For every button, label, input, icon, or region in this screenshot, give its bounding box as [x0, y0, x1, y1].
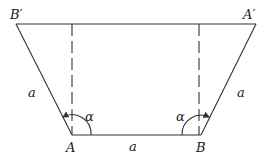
label-A: A: [66, 141, 75, 154]
angle-arc-B: [182, 115, 209, 135]
trapezoid-diagram: B′ A′ A B a a a α α: [0, 0, 268, 158]
label-angle-A: α: [85, 110, 94, 123]
diagram-canvas: [0, 0, 268, 158]
label-angle-B: α: [176, 110, 185, 123]
label-B: B: [196, 141, 206, 154]
label-side-bottom: a: [129, 140, 137, 153]
edge-left: [16, 24, 72, 135]
label-B-prime: B′: [10, 8, 23, 21]
label-side-left: a: [28, 86, 36, 99]
edge-right: [201, 24, 256, 135]
label-A-prime: A′: [243, 8, 255, 21]
label-side-right: a: [237, 86, 245, 99]
